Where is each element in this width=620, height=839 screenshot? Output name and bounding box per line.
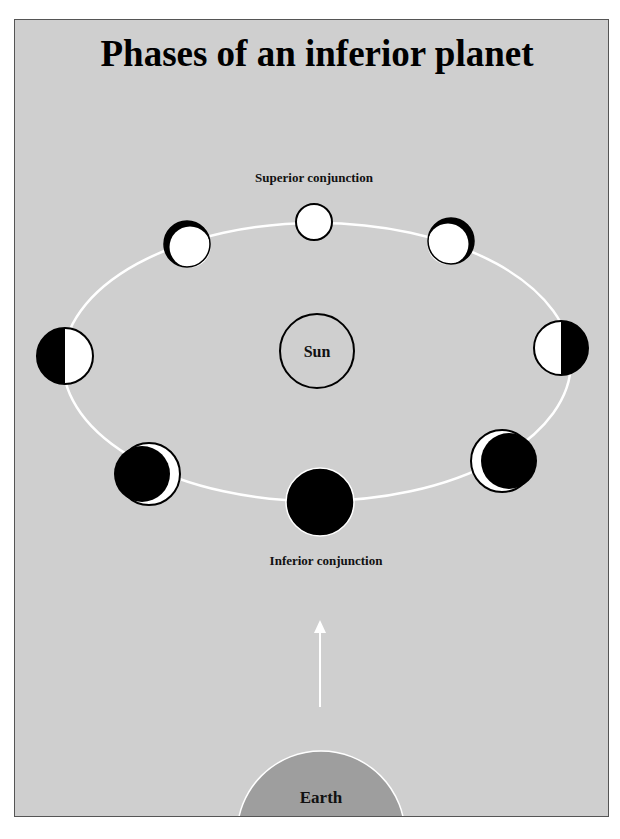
superior-conjunction-label: Superior conjunction [255, 170, 374, 185]
earth: Earth [237, 751, 405, 817]
sun: Sun [280, 314, 354, 388]
diagram-frame: Phases of an inferior planet Sun Superio… [14, 19, 609, 817]
arrow-up-icon [314, 620, 326, 707]
phase-quarter-left-icon [37, 328, 93, 384]
phase-full-icon [296, 204, 332, 240]
phase-new-icon [286, 468, 354, 536]
phase-quarter-right-icon [534, 321, 588, 375]
inferior-conjunction-label: Inferior conjunction [270, 553, 384, 568]
earth-label: Earth [300, 788, 343, 807]
earth-circle [237, 751, 405, 817]
sun-label: Sun [304, 343, 331, 360]
phases-diagram: Phases of an inferior planet Sun Superio… [15, 20, 609, 817]
phase-gibbous-left-icon [164, 221, 211, 268]
phase-gibbous-right-icon [428, 218, 475, 265]
page-title: Phases of an inferior planet [100, 33, 534, 74]
